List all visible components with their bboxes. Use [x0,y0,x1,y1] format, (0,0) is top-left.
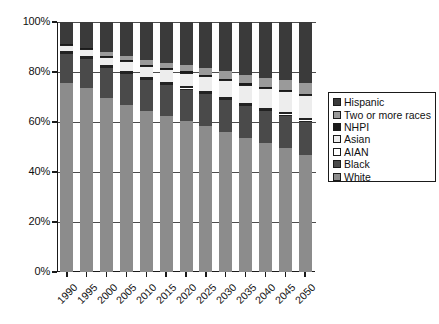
bar-segment [100,52,113,56]
legend-label: AIAN [344,147,369,157]
bar-segment [100,98,113,272]
bar-segment [80,48,93,49]
y-tick-label: 40% [29,165,50,177]
legend-label: NHPI [344,122,369,132]
y-tick-label: 0% [35,265,51,277]
x-tick-mark [126,272,127,277]
legend-item-white: White [333,170,435,182]
bar-segment [199,92,212,94]
x-tick-mark [265,272,266,277]
bar-segment [100,57,113,67]
bar-segment [259,109,272,112]
bar-segment [120,74,133,105]
legend-label: Two or more races [344,110,431,120]
bar-segment [140,60,153,65]
x-tick-mark [225,272,226,277]
bar-segment [100,56,113,57]
bar-segment [239,83,252,84]
bar [140,22,153,272]
bar-segment [60,22,73,44]
legend-label: Hispanic [344,97,384,107]
bar-segment [180,22,193,65]
x-tick-mark [285,272,286,277]
legend-swatch [333,160,341,168]
bar-segment [160,22,173,63]
bar [239,22,252,272]
bar-segment [259,143,272,272]
bar-segment [180,65,193,71]
y-tick-label: 80% [29,65,50,77]
bar-segment [120,56,133,60]
bar-segment [259,22,272,78]
bar-segment [279,113,292,116]
x-tick-mark [205,272,206,277]
bar-segment [239,138,252,272]
bar-segment [160,85,173,116]
bar-segment [160,68,173,69]
bar-segment [299,155,312,273]
legend-item-hispanic: Hispanic [333,96,435,108]
bar [180,22,193,272]
legend-item-asian: Asian [333,133,435,145]
bar-segment [80,22,93,48]
bar-segment [219,132,232,272]
bar [199,22,212,272]
x-tick-mark [106,272,107,277]
bar-segment [180,121,193,272]
x-tick-mark [304,272,305,277]
bar-segment [60,54,73,84]
bar-segment [279,91,292,113]
bar-segment [219,98,232,101]
bar-segment [279,148,292,272]
y-tick-label: 100% [23,15,50,27]
bar-segment [199,22,212,68]
bar-segment [199,126,212,272]
bar-segment [100,66,113,68]
bar-segment [60,52,73,54]
bar-segment [160,63,173,68]
legend-item-two-or-more-races: Two or more races [333,108,435,120]
bar-segment [80,57,93,59]
bar-segment [219,80,232,98]
bar-segment [100,68,113,98]
bar-segment [299,119,312,122]
bar-segment [279,116,292,149]
bar-segment [239,104,252,107]
legend-item-aian: AIAN [333,146,435,158]
bar-segment [180,90,193,121]
bar-segment [120,60,133,61]
bar [100,22,113,272]
bar-segment [259,87,272,88]
bar-segment [140,66,153,78]
chart-figure: 0%20%40%60%80%100% 199019952000200520102… [0,0,439,324]
bar-segment [259,78,272,87]
legend-item-black: Black [333,158,435,170]
legend-item-nhpi: NHPI [333,121,435,133]
bar-segment [299,83,312,94]
bar-segment [120,22,133,56]
bar-segment [299,95,312,119]
bar-segment [239,22,252,75]
x-tick-mark [165,272,166,277]
bar-segment [219,22,232,71]
bar-segment [160,69,173,82]
bar-segment [259,88,272,109]
bar-segment [180,73,193,88]
bar-segment [180,71,193,72]
bar-segment [140,80,153,111]
bar [160,22,173,272]
bar-segment [60,44,73,45]
bar [259,22,272,272]
bar-segment [299,122,312,155]
bar-segment [299,94,312,96]
x-tick-mark [86,272,87,277]
bar [219,22,232,272]
bar-segment [239,85,252,104]
bar-segment [299,22,312,83]
bar-segment [279,80,292,90]
bar-segment [239,75,252,83]
bar-segment [199,75,212,76]
bar-segment [239,106,252,138]
legend-label: Asian [344,134,370,144]
bar-segment [219,79,232,80]
